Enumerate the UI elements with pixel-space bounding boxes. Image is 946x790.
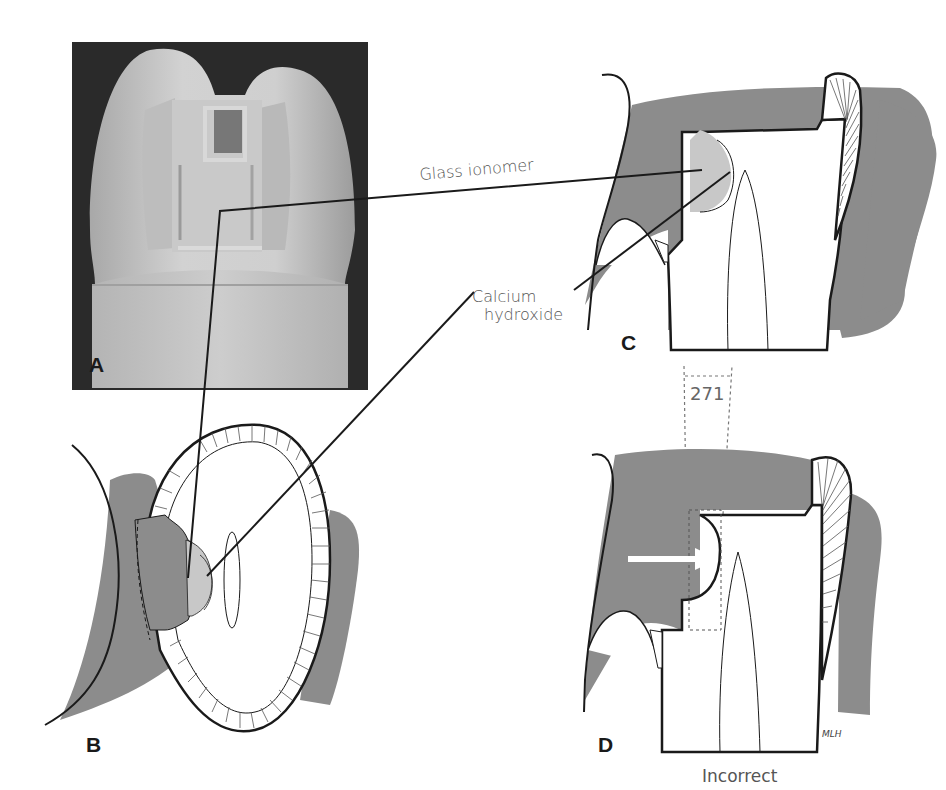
dental-restoration-figure: A C 2 (0, 0, 946, 790)
panel-c-drawing: C (585, 74, 936, 354)
label-glass-ionomer: Glass ionomer (419, 155, 535, 184)
panel-d-drawing: D Incorrect MLH (584, 449, 882, 786)
artist-signature: MLH (822, 729, 842, 739)
panel-letter-a: A (89, 353, 104, 376)
label-hydroxide: hydroxide (484, 305, 563, 324)
panel-letter-c: C (621, 331, 636, 354)
panel-b-drawing: B (45, 425, 359, 756)
label-calcium: Calcium (472, 287, 536, 306)
bur-number-label: 271 (690, 383, 724, 404)
panel-letter-b: B (86, 733, 101, 756)
panel-d-caption: Incorrect (702, 766, 778, 786)
panel-letter-d: D (598, 733, 613, 756)
